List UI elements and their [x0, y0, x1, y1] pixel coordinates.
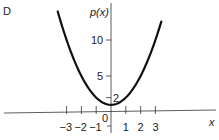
x-tick-label: 1	[123, 121, 129, 133]
panel-label: D	[3, 5, 11, 17]
axes: −3−2−11232510	[4, 3, 216, 133]
x-axis-label: x	[208, 116, 215, 128]
chart: D −3−2−11232510 p(x) x 0	[0, 0, 219, 140]
y-tick-label: 2	[113, 92, 119, 104]
x-tick-label: −3	[60, 121, 73, 133]
x-tick-label: 3	[152, 121, 158, 133]
y-tick-label: 5	[97, 70, 103, 82]
x-tick-label: −1	[89, 121, 102, 133]
x-tick-label: 2	[138, 121, 144, 133]
origin-label: 0	[102, 112, 108, 124]
x-tick-label: −2	[74, 121, 87, 133]
x-axis-line	[4, 110, 216, 113]
curve-layer	[58, 11, 162, 104]
series-line-p	[58, 11, 162, 104]
y-axis-label: p(x)	[89, 6, 109, 18]
y-tick-label: 10	[91, 34, 103, 46]
